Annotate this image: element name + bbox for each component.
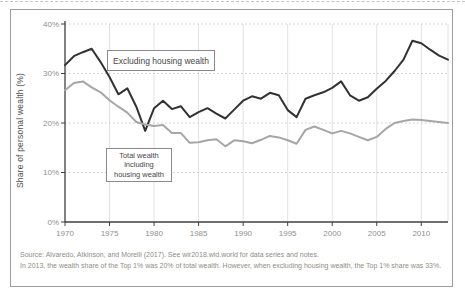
y-axis-title: Share of personal wealth (%): [15, 51, 28, 211]
y-tick-label: 40%: [43, 20, 59, 29]
annotation-total-line3: housing wealth: [114, 170, 164, 180]
x-tick-label: 1970: [56, 229, 74, 238]
y-tick-label: 0%: [47, 218, 59, 227]
x-tick-label: 2005: [368, 229, 386, 238]
x-tick-label: 1980: [145, 229, 163, 238]
annotation-excluding-housing-wealth: Excluding housing wealth: [107, 50, 215, 71]
x-tick-label: 2010: [412, 229, 430, 238]
annotation-total-line2: including: [124, 160, 154, 170]
reading-note: In 2013, the wealth share of the Top 1% …: [20, 261, 447, 271]
y-tick-label: 20%: [43, 119, 59, 128]
y-tick-label: 10%: [43, 168, 59, 177]
annotation-total-wealth: Total wealth including housing wealth: [106, 148, 172, 182]
x-tick-label: 1990: [234, 229, 252, 238]
wealth-share-chart-screenshot: 0%10%20%30%40%19701975198019851990199520…: [0, 0, 465, 298]
chart-footer: Source: Alvaredo, Atkinson, and Morelli …: [20, 250, 447, 271]
x-tick-label: 1985: [190, 229, 208, 238]
x-tick-label: 1975: [101, 229, 119, 238]
source-note: Source: Alvaredo, Atkinson, and Morelli …: [20, 250, 447, 260]
x-tick-label: 1995: [279, 229, 297, 238]
annotation-total-line1: Total wealth: [119, 151, 159, 161]
x-tick-label: 2000: [323, 229, 341, 238]
y-tick-label: 30%: [43, 69, 59, 78]
annotation-excluding-label: Excluding housing wealth: [113, 56, 209, 66]
